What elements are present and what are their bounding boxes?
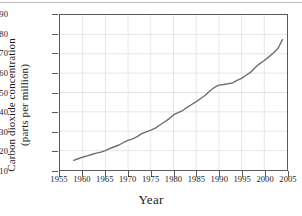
y-axis-title-line2: (parts per million): [18, 15, 31, 195]
co2-series-line: [74, 40, 283, 161]
x-axis-tick-label: 1960: [73, 174, 90, 184]
x-axis-title: Year: [0, 192, 302, 208]
y-axis-tick: [52, 132, 58, 133]
x-axis-tick-label: 1990: [211, 174, 228, 184]
y-axis-tick-label: 340: [0, 107, 8, 117]
co2-concentration-chart: Carbon dioxide concentration (parts per …: [0, 0, 302, 216]
y-axis-tick: [52, 112, 58, 113]
y-axis-tick: [52, 93, 58, 94]
x-axis-tick-label: 1965: [96, 174, 113, 184]
y-axis-tick: [52, 14, 58, 15]
x-axis-tick-label: 2000: [256, 174, 273, 184]
x-axis-tick-label: 1980: [165, 174, 182, 184]
x-axis-tick-label: 2005: [279, 174, 296, 184]
y-axis-tick-label: 320: [0, 146, 8, 156]
y-axis-tick-label: 390: [0, 9, 8, 19]
y-axis-tick-label: 380: [0, 29, 8, 39]
y-axis-tick: [52, 151, 58, 152]
x-axis-tick-label: 1975: [142, 174, 159, 184]
y-axis-tick-label: 370: [0, 48, 8, 58]
x-axis-tick-label: 1985: [188, 174, 205, 184]
x-axis-tick-label: 1995: [233, 174, 250, 184]
y-axis-tick: [52, 73, 58, 74]
plot-area: [59, 14, 288, 171]
y-axis-title: Carbon dioxide concentration (parts per …: [5, 15, 31, 195]
x-axis-tick-label: 1955: [50, 174, 67, 184]
data-series-line: [60, 15, 287, 170]
y-axis-tick: [52, 53, 58, 54]
y-axis-tick-label: 360: [0, 68, 8, 78]
x-axis-tick-label: 1970: [119, 174, 136, 184]
y-axis-tick-label: 330: [0, 127, 8, 137]
y-axis-tick-label: 350: [0, 88, 8, 98]
y-axis-tick-label: 310: [0, 166, 8, 176]
y-axis-tick: [52, 34, 58, 35]
y-axis-tick: [52, 171, 58, 172]
